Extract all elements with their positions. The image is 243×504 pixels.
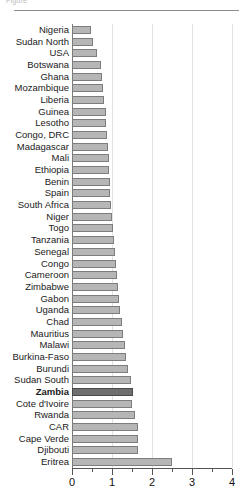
- category-label: Botswana: [27, 59, 69, 70]
- bar-row: Mozambique: [72, 84, 232, 92]
- bar: [72, 318, 122, 326]
- bar-row: Mauritius: [72, 330, 232, 338]
- x-tick-label: 3: [189, 476, 195, 489]
- clipped-header-text: Figure: [6, 0, 27, 5]
- bar-row: Mali: [72, 154, 232, 162]
- bar-row: Cape Verde: [72, 435, 232, 443]
- x-tick-major: [192, 469, 193, 475]
- gridline-4: [232, 24, 233, 468]
- x-tick-label: 1: [109, 476, 115, 489]
- bar: [72, 213, 112, 221]
- bar: [72, 341, 125, 349]
- bar: [72, 143, 108, 151]
- category-label: Gabon: [40, 293, 69, 304]
- bar: [72, 201, 111, 209]
- bar: [72, 61, 101, 69]
- bar-row: Sudan South: [72, 376, 232, 384]
- bar: [72, 295, 119, 303]
- category-label: Cote d'Ivoire: [16, 398, 69, 409]
- category-label: Sudan South: [14, 374, 69, 385]
- bar-row: Tanzania: [72, 236, 232, 244]
- category-label: Senegal: [34, 246, 69, 257]
- bar-row: Gabon: [72, 295, 232, 303]
- bar: [72, 388, 133, 396]
- x-tick-major: [112, 469, 113, 475]
- bar-row: USA: [72, 49, 232, 57]
- x-tick-minor: [132, 469, 133, 472]
- bar-row: Zimbabwe: [72, 283, 232, 291]
- bar: [72, 353, 126, 361]
- category-label: Burundi: [36, 363, 69, 374]
- bar-row: Sudan North: [72, 38, 232, 46]
- bar-row: Lesotho: [72, 119, 232, 127]
- category-label: Eritrea: [41, 456, 69, 467]
- bar: [72, 224, 113, 232]
- category-label: Congo: [41, 258, 69, 269]
- bar-row: Uganda: [72, 306, 232, 314]
- category-label: Cameroon: [25, 269, 69, 280]
- bar: [72, 271, 117, 279]
- x-tick-label: 0: [69, 476, 75, 489]
- bar-row: Niger: [72, 213, 232, 221]
- category-label: Zambia: [36, 386, 69, 397]
- x-tick-label: 2: [149, 476, 155, 489]
- bar: [72, 365, 128, 373]
- bar: [72, 446, 138, 454]
- category-label: Cape Verde: [19, 433, 69, 444]
- bar: [72, 330, 123, 338]
- category-label: Sudan North: [16, 36, 69, 47]
- category-label: CAR: [49, 421, 69, 432]
- bar-row: Ghana: [72, 73, 232, 81]
- bar-row: Djibouti: [72, 446, 232, 454]
- bar: [72, 376, 131, 384]
- x-tick-label: 4: [229, 476, 235, 489]
- category-label: Ghana: [40, 71, 69, 82]
- bar-row: Nigeria: [72, 26, 232, 34]
- bar: [72, 108, 106, 116]
- category-label: Malawi: [39, 339, 69, 350]
- category-label: Rwanda: [34, 409, 69, 420]
- category-label: Mozambique: [15, 82, 69, 93]
- bar: [72, 38, 93, 46]
- category-label: Madagascar: [17, 141, 69, 152]
- bar-row: Togo: [72, 224, 232, 232]
- bar: [72, 435, 138, 443]
- category-label: Mali: [52, 152, 69, 163]
- bar: [72, 248, 115, 256]
- bar-row: Botswana: [72, 61, 232, 69]
- category-label: USA: [49, 47, 69, 58]
- bar-row: Cameroon: [72, 271, 232, 279]
- category-label: South Africa: [18, 199, 69, 210]
- category-label: Liberia: [40, 94, 69, 105]
- bar-row: Liberia: [72, 96, 232, 104]
- bar-row: South Africa: [72, 201, 232, 209]
- bar-row: Zambia: [72, 388, 232, 396]
- category-label: Togo: [48, 222, 69, 233]
- bar-row: Burkina-Faso: [72, 353, 232, 361]
- bar: [72, 306, 120, 314]
- figure-container: Figure NigeriaSudan NorthUSABotswanaGhan…: [0, 0, 243, 504]
- category-label: Benin: [45, 176, 69, 187]
- category-label: Uganda: [36, 304, 69, 315]
- bar: [72, 131, 107, 139]
- category-label: Lesotho: [35, 117, 69, 128]
- bar-row: Ethiopia: [72, 166, 232, 174]
- bar-row: Madagascar: [72, 143, 232, 151]
- bar: [72, 166, 109, 174]
- bar: [72, 283, 118, 291]
- bar: [72, 423, 138, 431]
- x-tick-minor: [92, 469, 93, 472]
- bar: [72, 96, 104, 104]
- bar: [72, 119, 106, 127]
- category-label: Zimbabwe: [25, 281, 69, 292]
- bar: [72, 84, 103, 92]
- bar: [72, 178, 110, 186]
- category-label: Ethiopia: [35, 164, 69, 175]
- bar: [72, 411, 135, 419]
- bar: [72, 458, 172, 466]
- bar: [72, 236, 114, 244]
- x-tick-major: [72, 469, 73, 475]
- x-tick-major: [152, 469, 153, 475]
- bar: [72, 154, 109, 162]
- bar-row: Benin: [72, 178, 232, 186]
